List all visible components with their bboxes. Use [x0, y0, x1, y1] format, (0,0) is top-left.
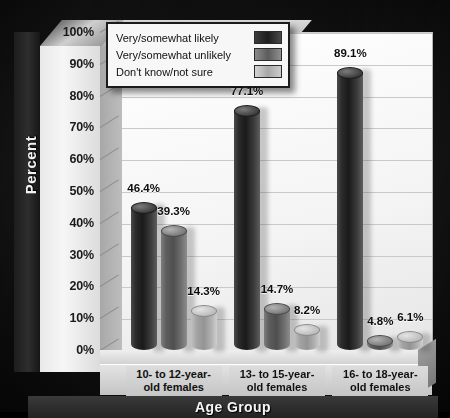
bar[interactable] [131, 202, 157, 350]
bar[interactable] [264, 303, 290, 350]
y-axis-tick-label: 0% [76, 343, 94, 357]
bar-body [161, 230, 187, 350]
category-line: 16- to 18-year- [332, 368, 428, 381]
axis-depth-wall [100, 46, 122, 372]
legend-swatch-icon [254, 48, 282, 61]
category-line: 13- to 15-year- [229, 368, 325, 381]
chart-figure: Percent 100%90%80%70%60%50%40%30%20%10%0… [14, 10, 438, 388]
gridline [122, 160, 432, 161]
legend-item[interactable]: Don't know/not sure [116, 63, 282, 80]
bar-top-cap [191, 305, 217, 317]
bar-top-cap [367, 335, 393, 347]
bar-value-label: 6.1% [397, 311, 423, 323]
category-line: old females [332, 381, 428, 394]
bar-body [131, 207, 157, 350]
x-axis-title: Age Group [28, 396, 438, 418]
y-axis-tick-label: 30% [70, 248, 94, 262]
bar-value-label: 14.3% [187, 285, 220, 297]
bar-value-label: 77.1% [231, 85, 264, 97]
bar-top-cap [234, 105, 260, 117]
bar[interactable] [294, 324, 320, 350]
axis-depth-tick [100, 148, 119, 161]
bar-value-label: 14.7% [261, 283, 294, 295]
axis-depth-tick [100, 116, 119, 129]
bar[interactable] [161, 225, 187, 350]
y-axis-tick-label: 20% [70, 279, 94, 293]
bar-top-cap [294, 324, 320, 336]
legend-item[interactable]: Very/somewhat unlikely [116, 46, 282, 63]
axis-depth-tick [100, 211, 119, 224]
category-line: old females [126, 381, 222, 394]
y-axis-tick-label: 50% [70, 184, 94, 198]
y-axis-tick-label: 100% [63, 25, 94, 39]
bar[interactable] [397, 331, 423, 350]
x-axis-category-label: 13- to 15-year-old females [229, 366, 325, 396]
bar-value-label: 8.2% [294, 304, 320, 316]
legend[interactable]: Very/somewhat likely Very/somewhat unlik… [106, 22, 290, 88]
gridline [122, 128, 432, 129]
legend-label: Very/somewhat likely [116, 32, 248, 44]
bar[interactable] [337, 67, 363, 350]
bar-top-cap [337, 67, 363, 79]
legend-label: Don't know/not sure [116, 66, 248, 78]
y-axis-tick-label: 60% [70, 152, 94, 166]
bar-value-label: 46.4% [127, 182, 160, 194]
axis-depth-tick [100, 179, 119, 192]
legend-swatch-icon [254, 31, 282, 44]
axis-depth-tick [100, 243, 119, 256]
y-axis-tick-label: 10% [70, 311, 94, 325]
bar-value-label: 39.3% [157, 205, 190, 217]
legend-swatch-icon [254, 65, 282, 78]
bar-top-cap [161, 225, 187, 237]
legend-item[interactable]: Very/somewhat likely [116, 29, 282, 46]
bar[interactable] [367, 335, 393, 350]
bar-value-label: 4.8% [367, 315, 393, 327]
y-axis: 100%90%80%70%60%50%40%30%20%10%0% [40, 46, 101, 372]
category-line: 10- to 12-year- [126, 368, 222, 381]
y-axis-tick-label: 40% [70, 216, 94, 230]
plot-floor-top [100, 350, 432, 364]
x-axis-category-label: 10- to 12-year-old females [126, 366, 222, 396]
bar-body [234, 110, 260, 350]
bar-body [337, 72, 363, 350]
gridline [122, 97, 432, 98]
x-axis-title-band: Age Group [28, 396, 438, 418]
y-axis-tick-label: 80% [70, 89, 94, 103]
bar-value-label: 89.1% [334, 47, 367, 59]
y-axis-title-band: Percent [14, 32, 40, 372]
y-axis-tick-label: 90% [70, 57, 94, 71]
legend-label: Very/somewhat unlikely [116, 49, 248, 61]
x-axis-category-label: 16- to 18-year-old females [332, 366, 428, 396]
y-axis-tick-label: 70% [70, 120, 94, 134]
bar[interactable] [191, 305, 217, 350]
gridline [122, 192, 432, 193]
bar[interactable] [234, 105, 260, 350]
axis-depth-tick [100, 307, 119, 320]
category-line: old females [229, 381, 325, 394]
bar-top-cap [397, 331, 423, 343]
axis-depth-tick [100, 275, 119, 288]
